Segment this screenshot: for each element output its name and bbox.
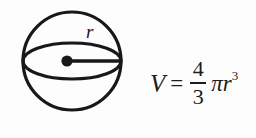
sphere-diagram: r bbox=[0, 0, 136, 138]
volume-of-sphere-figure: r V = 4 3 π r 3 bbox=[0, 0, 256, 138]
radius-label: r bbox=[86, 22, 93, 41]
fraction-denominator: 3 bbox=[191, 85, 206, 109]
formula-variable-v: V bbox=[150, 71, 165, 96]
formula-fraction-four-thirds: 4 3 bbox=[190, 57, 206, 109]
sphere-volume-formula: V = 4 3 π r 3 bbox=[150, 57, 238, 109]
formula-radius-symbol: r bbox=[223, 72, 232, 95]
formula-pi-symbol: π bbox=[211, 72, 223, 95]
fraction-numerator: 4 bbox=[191, 57, 206, 81]
formula-exponent-three: 3 bbox=[232, 69, 239, 82]
formula-equals-sign: = bbox=[170, 72, 183, 95]
sphere-svg bbox=[0, 0, 136, 138]
center-dot-icon bbox=[61, 55, 72, 66]
